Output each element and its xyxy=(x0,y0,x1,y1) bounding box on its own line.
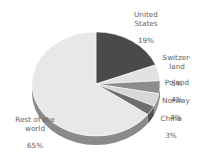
slice-label-name-rest-of-the-world: Rest of the world xyxy=(2,116,68,133)
slice-label-name-china: China xyxy=(146,115,196,123)
slice-label-name-norway: Norway xyxy=(150,97,202,105)
slice-label-value-rest-of-the-world: 65% xyxy=(2,142,68,150)
pie-chart: United States 19% Switzer- land 5% Polan… xyxy=(0,0,205,159)
slice-label-name-switzerland: Switzer- land xyxy=(152,54,202,71)
slice-label-value-china: 3% xyxy=(146,132,196,140)
slice-label-value-united-states: 19% xyxy=(118,37,174,45)
slice-label-china: China 3% xyxy=(146,107,196,149)
slice-label-name-poland: Poland xyxy=(152,79,202,87)
slice-label-rest-of-the-world: Rest of the world 65% xyxy=(2,108,68,158)
slice-label-name-united-states: United States xyxy=(118,11,174,28)
